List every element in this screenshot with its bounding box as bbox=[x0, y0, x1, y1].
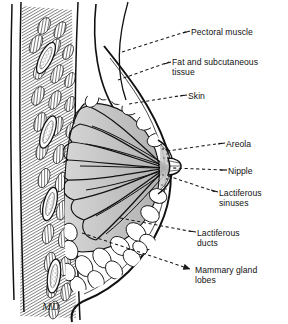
label-mammary-gland-lobes: Mammary gland lobes bbox=[195, 265, 257, 286]
leader-lactiferous-sinuses bbox=[168, 176, 216, 192]
nipple bbox=[168, 158, 181, 175]
leader-pectoral-muscle bbox=[122, 31, 188, 52]
leader-fat-and-subcutaneous-tissue bbox=[118, 62, 169, 80]
label-skin: Skin bbox=[188, 91, 205, 101]
label-nipple: Nipple bbox=[228, 166, 253, 176]
leader-areola bbox=[167, 143, 223, 151]
label-lactiferous-ducts: Lactiferous ducts bbox=[197, 228, 240, 249]
label-areola: Areola bbox=[226, 139, 251, 149]
label-lactiferous-sinuses: Lactiferous sinuses bbox=[219, 188, 262, 209]
label-fat-and-subcutaneous-tissue: Fat and subcutaneous tissue bbox=[172, 57, 258, 78]
breast-anatomy-figure: Pectoral muscle Fat and subcutaneous tis… bbox=[0, 0, 288, 324]
label-pectoral-muscle: Pectoral muscle bbox=[191, 27, 253, 37]
